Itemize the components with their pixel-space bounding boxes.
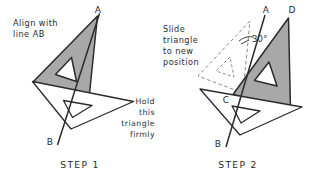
drafting-instruction-figure: A B Align with line AB Hold this triangl… [0, 0, 313, 179]
note-hold-line-4: firmly [130, 130, 155, 139]
vertex-label-b: B [215, 139, 221, 149]
step-1-caption: STEP 1 [60, 159, 99, 170]
instruction-slide-line-3: to new [163, 46, 193, 56]
angle-label-30: 30° [252, 34, 268, 44]
step-2-caption: STEP 2 [218, 159, 257, 170]
vertex-label-d: D [288, 5, 295, 15]
instruction-align-line-1: Align with [13, 18, 58, 28]
instruction-slide-line-4: position [163, 57, 199, 67]
instruction-slide-line-2: triangle [163, 35, 198, 45]
note-hold-line-3: triangle [121, 119, 155, 128]
vertex-label-b: B [47, 137, 53, 147]
vertex-label-c: C [223, 95, 229, 105]
note-hold-line-2: this [139, 108, 155, 117]
instruction-slide-line-1: Slide [163, 24, 185, 34]
instruction-align-line-2: line AB [13, 29, 45, 39]
note-hold-line-1: Hold [135, 97, 155, 106]
vertex-label-a: A [263, 5, 270, 15]
vertex-label-a: A [95, 5, 102, 15]
